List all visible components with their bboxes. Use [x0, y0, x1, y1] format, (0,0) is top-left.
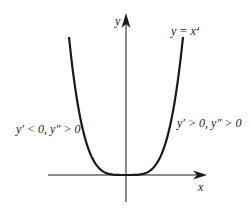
x-axis-label: x: [198, 181, 203, 193]
quartic-function-plot: [0, 0, 250, 208]
function-label: y = x4: [171, 25, 199, 37]
function-label-exponent: 4: [196, 25, 200, 33]
right-annotation: y′ > 0, y″ > 0: [177, 117, 241, 129]
left-annotation: y′ < 0, y″ > 0: [16, 123, 80, 135]
function-label-base: y = x: [171, 24, 196, 38]
y-axis-label: y: [115, 15, 120, 27]
